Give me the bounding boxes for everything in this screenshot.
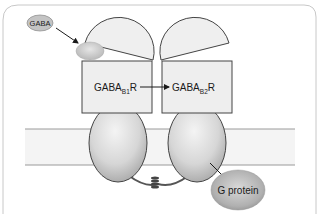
gaba-binding-oval bbox=[76, 42, 104, 60]
gaba-b-receptor-diagram: GABA GABAB1R GABAB2R G protein bbox=[0, 0, 322, 222]
b1-transmembrane-domain bbox=[89, 104, 147, 182]
g-protein: G protein bbox=[211, 170, 265, 210]
gaba-label: GABA bbox=[30, 19, 51, 28]
cell-membrane bbox=[25, 129, 295, 165]
gaba-binding-arrow bbox=[56, 28, 78, 43]
gaba-ligand: GABA bbox=[27, 15, 53, 31]
diagram-frame bbox=[3, 5, 316, 214]
coiled-coil-icon bbox=[151, 177, 159, 189]
b2-venus-flytrap-domain bbox=[160, 17, 229, 60]
g-protein-label: G protein bbox=[217, 185, 258, 196]
coiled-coil-linker bbox=[128, 175, 188, 189]
